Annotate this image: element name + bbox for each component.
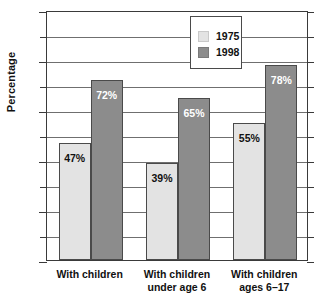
x-axis-category-label: With childrenages 6–17 [221, 268, 308, 294]
y-axis-major-tick [39, 12, 47, 13]
plot-area: 02040608010047%72%39%65%55%78% [46, 11, 308, 261]
gridline [47, 62, 307, 63]
right-axis-tick [307, 237, 314, 238]
bar-value-label: 78% [266, 75, 296, 86]
bar-1998-2: 65% [178, 98, 210, 261]
bar-value-label: 47% [60, 153, 90, 164]
dark-gray-swatch-icon [198, 47, 209, 58]
right-axis-tick [307, 12, 314, 13]
y-axis-major-tick [39, 112, 47, 113]
x-axis-category-label: With children [46, 268, 133, 281]
bar-1998-3: 78% [265, 65, 297, 260]
y-axis-tick [40, 87, 47, 88]
bar-value-label: 65% [179, 108, 209, 119]
y-axis-tick [40, 137, 47, 138]
light-gray-swatch-icon [198, 31, 209, 42]
legend-entry-1975: 1975 [198, 30, 239, 43]
bar-value-label: 55% [234, 133, 264, 144]
bar-1998-1: 72% [91, 80, 123, 260]
right-axis-tick [307, 212, 314, 213]
x-axis-category-label: With childrenunder age 6 [133, 268, 220, 294]
bar-1975-3: 55% [233, 123, 265, 261]
legend-label-1998: 1998 [216, 47, 239, 58]
y-axis-tick [40, 37, 47, 38]
y-axis-title: Percentage [0, 37, 22, 127]
bar-chart-figure: Percentage 02040608010047%72%39%65%55%78… [0, 0, 327, 300]
right-axis-tick [307, 112, 314, 113]
category-label-line-1: With children [56, 268, 122, 280]
legend-entry-1998: 1998 [198, 46, 239, 59]
chart-legend: 1975 1998 [190, 16, 242, 69]
y-axis-major-tick [39, 262, 47, 263]
y-axis-tick [40, 187, 47, 188]
right-axis-tick [307, 62, 314, 63]
bar-value-label: 39% [147, 173, 177, 184]
right-axis-tick [307, 37, 314, 38]
right-axis-tick [307, 187, 314, 188]
gridline [47, 37, 307, 38]
y-axis-tick [40, 237, 47, 238]
y-axis-major-tick [39, 62, 47, 63]
category-label-line-2: under age 6 [133, 281, 220, 294]
category-label-line-1: With children [231, 268, 297, 280]
right-axis-tick [307, 137, 314, 138]
bar-1975-2: 39% [146, 163, 178, 261]
legend-label-1975: 1975 [216, 31, 239, 42]
y-axis-major-tick [39, 212, 47, 213]
bar-value-label: 72% [92, 90, 122, 101]
category-label-line-2: ages 6–17 [221, 281, 308, 294]
y-axis-major-tick [39, 162, 47, 163]
category-label-line-1: With children [144, 268, 210, 280]
right-axis-tick [307, 87, 314, 88]
right-axis-tick [307, 162, 314, 163]
bar-1975-1: 47% [59, 143, 91, 261]
right-axis-tick [307, 262, 314, 263]
